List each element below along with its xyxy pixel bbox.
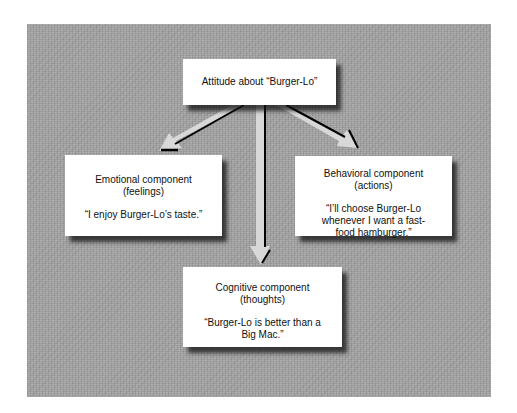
cognitive-component-box: Cognitive component (thoughts) “Burger-L… xyxy=(183,267,342,347)
behavioral-component-subtitle: (actions) xyxy=(313,180,434,192)
attitude-root-box: Attitude about “Burger-Lo” xyxy=(183,59,336,105)
arrow-to-behavioral xyxy=(276,105,358,148)
emotional-component-subtitle: (feelings) xyxy=(65,186,222,198)
arrow-to-emotional xyxy=(159,105,244,151)
emotional-component-box: Emotional component (feelings) “I enjoy … xyxy=(65,155,222,236)
cognitive-component-title: Cognitive component xyxy=(197,282,328,294)
cognitive-component-subtitle: (thoughts) xyxy=(197,294,328,306)
emotional-component-quote: “I enjoy Burger-Lo’s taste.” xyxy=(65,209,222,221)
cognitive-component-quote: “Burger-Lo is better than a Big Mac.” xyxy=(197,317,328,341)
arrow-to-cognitive xyxy=(250,105,270,265)
behavioral-component-quote: “I’ll choose Burger-Lo whenever I want a… xyxy=(313,203,434,239)
behavioral-component-box: Behavioral component (actions) “I’ll cho… xyxy=(295,156,452,236)
behavioral-component-title: Behavioral component xyxy=(313,168,434,180)
emotional-component-title: Emotional component xyxy=(65,174,222,186)
attitude-root-label: Attitude about “Burger-Lo” xyxy=(183,76,336,88)
